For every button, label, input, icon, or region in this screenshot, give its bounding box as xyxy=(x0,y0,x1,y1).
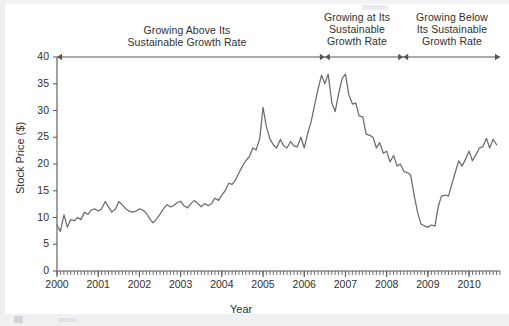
x-tick-label: 2002 xyxy=(119,278,159,290)
y-tick-label: 5 xyxy=(25,237,49,249)
arrow-head xyxy=(495,54,500,60)
annotation-line: Growing at Its xyxy=(313,11,401,23)
x-axis-title: Year xyxy=(230,303,252,315)
y-tick-label: 0 xyxy=(25,264,49,276)
annotation-growing-at: Growing at ItsSustainableGrowth Rate xyxy=(313,11,401,48)
annotation-line: Growth Rate xyxy=(402,35,502,47)
arrow-head xyxy=(398,54,403,60)
y-tick-label: 35 xyxy=(25,77,49,89)
x-tick-label: 2005 xyxy=(243,278,283,290)
x-tick-label: 2008 xyxy=(367,278,407,290)
y-tick-label: 20 xyxy=(25,157,49,169)
annotation-growing-below: Growing BelowIts SustainableGrowth Rate xyxy=(402,11,502,48)
y-tick-label: 15 xyxy=(25,184,49,196)
y-tick-label: 40 xyxy=(25,50,49,62)
annotation-line: Sustainable xyxy=(313,23,401,35)
y-tick-label: 30 xyxy=(25,104,49,116)
major-ticks-group xyxy=(53,57,469,277)
x-tick-label: 2009 xyxy=(408,278,448,290)
x-tick-label: 2000 xyxy=(37,278,77,290)
arrow-head xyxy=(403,54,408,60)
annotation-line: Growth Rate xyxy=(313,35,401,47)
x-tick-label: 2006 xyxy=(284,278,324,290)
x-tick-label: 2003 xyxy=(161,278,201,290)
y-tick-label: 10 xyxy=(25,211,49,223)
minor-ticks-group xyxy=(57,271,500,275)
series-line-stock-price xyxy=(57,74,497,231)
annotation-line: Growing Above Its xyxy=(72,24,302,36)
arrow-head xyxy=(57,54,62,60)
x-tick-label: 2004 xyxy=(202,278,242,290)
annotation-line: Its Sustainable xyxy=(402,23,502,35)
annotation-line: Growing Below xyxy=(402,11,502,23)
arrow-head xyxy=(325,54,330,60)
arrow-head xyxy=(320,54,325,60)
chart-page: Stock Price ($) Year 0510152025303540 20… xyxy=(0,0,509,326)
x-tick-label: 2007 xyxy=(325,278,365,290)
annotation-line: Sustainable Growth Rate xyxy=(72,36,302,48)
x-tick-label: 2010 xyxy=(449,278,489,290)
phase-brackets-group xyxy=(57,54,500,60)
data-series-group xyxy=(57,74,497,231)
annotation-growing-above: Growing Above ItsSustainable Growth Rate xyxy=(72,24,302,48)
y-tick-label: 25 xyxy=(25,130,49,142)
axes-group xyxy=(57,57,500,271)
x-tick-label: 2001 xyxy=(78,278,118,290)
